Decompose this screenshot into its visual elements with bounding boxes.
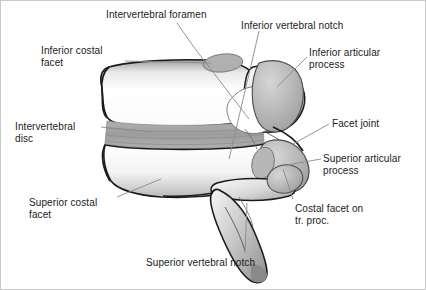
- anatomy-figure: Intervertebral foramen Inferior vertebra…: [0, 0, 426, 290]
- label-superior-vertebral-notch: Superior vertebral notch: [146, 257, 255, 269]
- label-superior-articular-process: Superior articular process: [323, 153, 401, 177]
- label-inferior-costal-facet: Inferior costal facet: [41, 45, 103, 69]
- label-inferior-vertebral-notch: Inferior vertebral notch: [241, 20, 343, 32]
- label-intervertebral-foramen: Intervertebral foramen: [106, 9, 207, 21]
- label-superior-costal-facet: Superior costal facet: [29, 197, 97, 221]
- label-inferior-articular-process: Inferior articular process: [309, 47, 380, 71]
- label-costal-facet-tr-proc: Costal facet on tr. proc.: [295, 203, 363, 227]
- leader-facet-joint: [293, 124, 329, 144]
- label-intervertebral-disc: Intervertebral disc: [15, 121, 75, 145]
- label-facet-joint: Facet joint: [332, 118, 379, 130]
